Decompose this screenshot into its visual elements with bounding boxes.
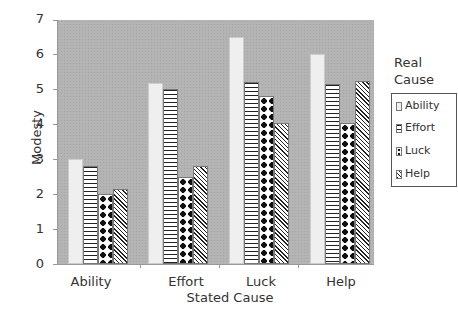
bar-ability-help (113, 189, 128, 264)
bar-ability-ability (68, 159, 83, 264)
x-category-label: Ability (51, 274, 131, 289)
bar-ability-effort (83, 166, 98, 264)
y-tick-mark (53, 20, 57, 21)
legend-label: Luck (405, 144, 430, 157)
bar-luck-help (274, 123, 289, 264)
x-axis-line (57, 264, 374, 265)
legend-title-line2: Cause (394, 71, 434, 88)
y-tick-mark (53, 159, 57, 160)
y-axis-title: Modesty (29, 98, 44, 178)
y-tick-mark (53, 229, 57, 230)
legend-label: Help (405, 167, 430, 180)
y-tick-mark (53, 124, 57, 125)
bar-help-effort (325, 84, 340, 264)
x-tick-mark (219, 264, 220, 268)
legend-item-luck: Luck (396, 144, 430, 158)
bar-effort-help (193, 166, 208, 264)
y-tick-label: 5 (24, 81, 44, 96)
bar-effort-ability (148, 83, 163, 264)
y-tick-mark (53, 54, 57, 55)
bar-luck-effort (244, 82, 259, 264)
legend-title: Real Cause (394, 54, 434, 88)
ability-swatch-icon (396, 102, 402, 111)
x-tick-mark (298, 264, 299, 268)
help-swatch-icon (396, 170, 402, 179)
y-tick-label: 1 (24, 221, 44, 236)
legend-item-ability: Ability (396, 99, 440, 113)
bar-ability-luck (98, 194, 113, 264)
y-tick-label: 6 (24, 46, 44, 61)
x-category-label: Luck (221, 274, 301, 289)
y-tick-mark (53, 264, 57, 265)
bar-help-help (355, 81, 370, 264)
bar-luck-ability (229, 37, 244, 264)
x-axis-title: Stated Cause (170, 290, 290, 305)
y-tick-mark (53, 194, 57, 195)
bar-help-ability (310, 54, 325, 264)
y-tick-label: 0 (24, 256, 44, 271)
legend-label: Ability (405, 99, 440, 112)
effort-swatch-icon (396, 124, 402, 133)
luck-swatch-icon (396, 147, 402, 156)
legend-title-line1: Real (394, 54, 434, 71)
y-tick-label: 7 (24, 11, 44, 26)
x-category-label: Help (301, 274, 381, 289)
legend: Ability Effort Luck Help (391, 93, 457, 187)
bar-effort-effort (163, 89, 178, 264)
y-axis-line (57, 20, 58, 265)
legend-item-effort: Effort (396, 121, 435, 135)
bar-effort-luck (178, 177, 193, 264)
x-tick-mark (140, 264, 141, 268)
bar-help-luck (340, 123, 355, 264)
legend-label: Effort (405, 121, 435, 134)
legend-item-help: Help (396, 167, 430, 181)
y-tick-label: 2 (24, 186, 44, 201)
x-category-label: Effort (146, 274, 226, 289)
y-tick-mark (53, 89, 57, 90)
bar-luck-luck (259, 96, 274, 264)
